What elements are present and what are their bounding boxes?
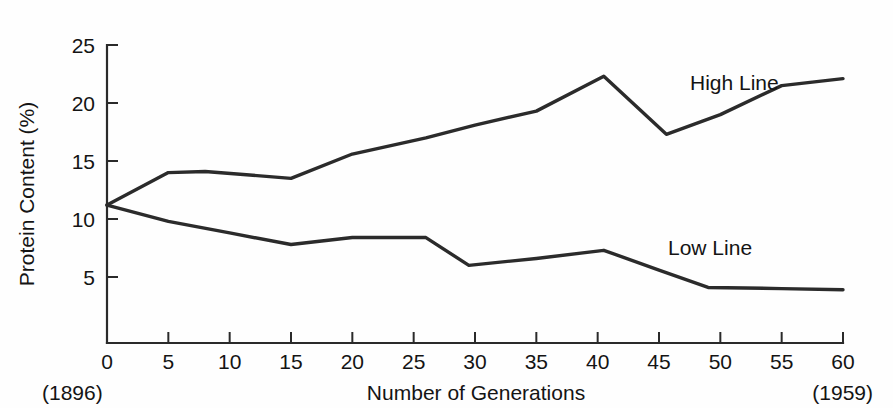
high-line-label: High Line (690, 71, 779, 94)
start-year-note: (1896) (42, 381, 103, 404)
x-tick-label: 25 (402, 350, 425, 373)
x-tick-label: 20 (341, 350, 364, 373)
y-axis-ticks (107, 45, 118, 277)
x-axis-ticks (107, 332, 843, 343)
x-tick-label: 30 (463, 350, 486, 373)
x-tick-label: 10 (218, 350, 241, 373)
y-axis-tick-labels: 510152025 (72, 34, 95, 289)
y-tick-label: 10 (72, 208, 95, 231)
x-tick-label: 40 (586, 350, 609, 373)
low-line-label: Low Line (668, 236, 752, 259)
x-tick-label: 50 (709, 350, 732, 373)
x-tick-label: 35 (525, 350, 548, 373)
x-tick-label: 45 (647, 350, 670, 373)
series-line-high-line (107, 76, 843, 205)
chart-figure: 510152025 051015202530354045505560 Prote… (0, 0, 893, 408)
y-tick-label: 20 (72, 92, 95, 115)
x-tick-label: 15 (279, 350, 302, 373)
x-tick-label: 5 (162, 350, 174, 373)
x-tick-label: 60 (831, 350, 854, 373)
x-tick-label: 0 (101, 350, 113, 373)
y-tick-label: 15 (72, 150, 95, 173)
x-axis-tick-labels: 051015202530354045505560 (101, 350, 855, 373)
y-axis-title: Protein Content (%) (15, 102, 38, 286)
y-tick-label: 25 (72, 34, 95, 57)
x-tick-label: 55 (770, 350, 793, 373)
end-year-note: (1959) (812, 381, 873, 404)
x-axis-title: Number of Generations (367, 381, 585, 404)
protein-content-line-chart: 510152025 051015202530354045505560 Prote… (0, 0, 893, 408)
y-tick-label: 5 (83, 266, 95, 289)
